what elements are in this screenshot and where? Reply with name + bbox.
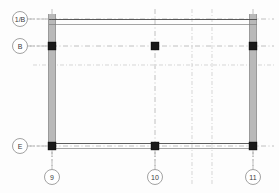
column-E-10 bbox=[151, 142, 159, 150]
plan-canvas: 1/B B E 9 10 11 bbox=[0, 0, 279, 193]
grid-bubble-11[interactable]: 11 bbox=[246, 170, 261, 185]
grid-bubble-B[interactable]: B bbox=[13, 39, 28, 54]
column-B-11 bbox=[249, 42, 257, 50]
column-E-9 bbox=[48, 142, 56, 150]
grid-bubble-10[interactable]: 10 bbox=[148, 170, 163, 185]
grid-bubble-9[interactable]: 9 bbox=[45, 170, 60, 185]
grid-bubble-label: 1/B bbox=[15, 16, 26, 23]
wall-layer bbox=[49, 14, 257, 150]
beam-layer bbox=[49, 20, 257, 149]
grid-bubble-1B[interactable]: 1/B bbox=[13, 12, 28, 27]
wall-left-vertical bbox=[49, 14, 56, 150]
gridline-layer bbox=[30, 9, 274, 186]
grid-bubble-E[interactable]: E bbox=[13, 139, 28, 154]
grid-bubble-label: 9 bbox=[50, 174, 54, 181]
column-layer bbox=[48, 42, 257, 150]
grid-bubble-label: E bbox=[18, 143, 23, 150]
column-E-11 bbox=[249, 142, 257, 150]
column-B-10 bbox=[151, 42, 159, 50]
grid-bubble-label: B bbox=[18, 43, 23, 50]
bubble-leader-layer bbox=[28, 19, 254, 170]
wall-right-vertical bbox=[250, 14, 257, 150]
grid-bubble-label: 11 bbox=[249, 174, 256, 181]
structural-plan-drawing: 1/B B E 9 10 11 bbox=[0, 0, 279, 193]
column-B-9 bbox=[48, 42, 56, 50]
grid-bubble-label: 10 bbox=[151, 174, 159, 181]
